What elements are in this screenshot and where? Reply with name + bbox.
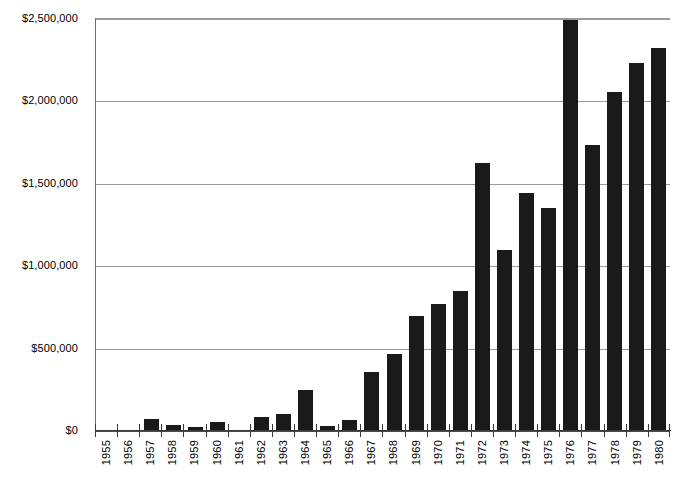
x-label-slot: 1961 — [228, 440, 250, 484]
y-axis: $0$500,000$1,000,000$1,500,000$2,000,000… — [0, 0, 86, 484]
x-tick-label: 1959 — [189, 440, 200, 465]
x-tick-label: 1973 — [499, 440, 510, 465]
bar — [409, 316, 424, 430]
x-tick-mark — [449, 424, 450, 437]
x-axis: 1955195619571958195919601961196219631964… — [95, 440, 670, 484]
x-tick-label: 1964 — [300, 440, 311, 465]
x-label-slot: 1962 — [250, 440, 272, 484]
x-label-slot: 1974 — [515, 440, 537, 484]
bar-slot — [582, 19, 604, 430]
x-tick-label: 1962 — [255, 440, 266, 465]
x-tick-mark — [626, 424, 627, 437]
x-label-slot: 1976 — [559, 440, 581, 484]
x-label-slot: 1970 — [427, 440, 449, 484]
x-tick-mark — [471, 424, 472, 437]
x-label-slot: 1965 — [316, 440, 338, 484]
x-label-slot: 1955 — [95, 440, 117, 484]
x-tick-label: 1958 — [167, 440, 178, 465]
y-tick-label: $500,000 — [31, 342, 78, 353]
x-label-slot: 1957 — [139, 440, 161, 484]
x-tick-mark — [338, 424, 339, 437]
y-tick-label: $2,500,000 — [22, 13, 78, 24]
bar-series — [96, 19, 670, 430]
x-tick-mark — [316, 424, 317, 437]
x-tick-label: 1972 — [476, 440, 487, 465]
x-tick-mark — [669, 424, 670, 437]
x-tick-label: 1963 — [277, 440, 288, 465]
bar — [651, 48, 666, 430]
bar — [519, 193, 534, 430]
x-tick-label: 1975 — [543, 440, 554, 465]
x-tick-slot — [183, 424, 205, 437]
bar-slot — [339, 19, 361, 430]
x-tick-label: 1967 — [366, 440, 377, 465]
x-tick-label: 1960 — [211, 440, 222, 465]
x-tick-label: 1969 — [410, 440, 421, 465]
bar-slot — [184, 19, 206, 430]
y-tick-label: $0 — [66, 425, 78, 436]
x-tick-slot — [250, 424, 272, 437]
x-label-slot: 1958 — [161, 440, 183, 484]
x-label-slot: 1968 — [382, 440, 404, 484]
x-tick-slot — [537, 424, 559, 437]
x-tick-label: 1976 — [565, 440, 576, 465]
x-tick-mark — [427, 424, 428, 437]
x-tick-mark — [604, 424, 605, 437]
bar-slot — [449, 19, 471, 430]
bar-slot — [273, 19, 295, 430]
x-tick-label: 1965 — [322, 440, 333, 465]
x-label-slot: 1979 — [626, 440, 648, 484]
bar-slot — [251, 19, 273, 430]
x-tick-mark — [559, 424, 560, 437]
bar-chart: $0$500,000$1,000,000$1,500,000$2,000,000… — [0, 0, 676, 484]
x-tick-slot — [294, 424, 316, 437]
x-tick-mark — [139, 424, 140, 437]
x-label-slot: 1980 — [648, 440, 670, 484]
x-tick-slot — [471, 424, 493, 437]
x-label-slot: 1977 — [581, 440, 603, 484]
x-tick-slot — [382, 424, 404, 437]
bar-slot — [604, 19, 626, 430]
x-label-slot: 1972 — [471, 440, 493, 484]
y-tick-label: $2,000,000 — [22, 95, 78, 106]
bar-slot — [560, 19, 582, 430]
bar-slot — [162, 19, 184, 430]
bar-slot — [361, 19, 383, 430]
x-tick-mark — [206, 424, 207, 437]
x-tick-mark — [95, 424, 96, 437]
bar — [629, 63, 644, 431]
x-tick-slot — [405, 424, 427, 437]
bar-slot — [648, 19, 670, 430]
x-tick-label: 1971 — [454, 440, 465, 465]
x-tick-slot — [206, 424, 228, 437]
x-tick-slot — [559, 424, 581, 437]
bar-slot — [427, 19, 449, 430]
bar-slot — [96, 19, 118, 430]
x-label-slot: 1973 — [493, 440, 515, 484]
x-tick-slot — [139, 424, 161, 437]
x-tick-slot — [493, 424, 515, 437]
bar — [497, 250, 512, 430]
x-tick-slot — [648, 424, 670, 437]
plot-area — [95, 18, 670, 430]
x-tick-slot — [449, 424, 471, 437]
x-label-slot: 1959 — [183, 440, 205, 484]
bar-slot — [206, 19, 228, 430]
x-tick-label: 1978 — [609, 440, 620, 465]
x-tick-mark — [117, 424, 118, 437]
x-tick-mark — [581, 424, 582, 437]
x-tick-label: 1974 — [521, 440, 532, 465]
x-tick-slot — [272, 424, 294, 437]
x-tick-mark — [515, 424, 516, 437]
x-tick-slot — [581, 424, 603, 437]
x-tick-slot — [427, 424, 449, 437]
bar — [387, 354, 402, 430]
x-tick-label: 1957 — [145, 440, 156, 465]
x-label-slot: 1956 — [117, 440, 139, 484]
x-tick-label: 1980 — [653, 440, 664, 465]
x-tick-slot — [228, 424, 250, 437]
x-label-slot: 1966 — [338, 440, 360, 484]
bar-slot — [626, 19, 648, 430]
x-tick-slot — [360, 424, 382, 437]
x-label-slot: 1967 — [360, 440, 382, 484]
